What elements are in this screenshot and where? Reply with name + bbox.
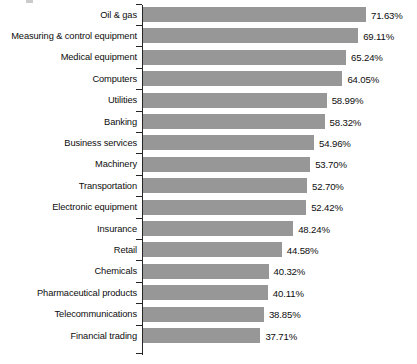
bar-value-label: 54.96% (319, 137, 351, 148)
bar (143, 285, 268, 300)
bar-value-label: 40.32% (274, 266, 306, 277)
axis-tick (136, 282, 142, 283)
category-label: Banking (104, 116, 137, 127)
bar-value-label: 69.11% (363, 30, 394, 41)
axis-tick (136, 111, 142, 112)
bar-value-label: 52.70% (312, 180, 344, 191)
category-label: Transportation (79, 180, 137, 191)
bar-value-label: 58.32% (330, 116, 362, 127)
bar-value-label: 38.85% (269, 309, 301, 320)
bar-value-label: 58.99% (332, 95, 364, 106)
bar-chart: Oil & gas71.63%Measuring & control equip… (0, 0, 417, 364)
axis-tick (136, 153, 142, 154)
bar (143, 71, 342, 86)
bar (143, 242, 282, 257)
bar-row: Retail44.58% (0, 242, 417, 257)
category-label: Computers (92, 73, 137, 84)
bar (143, 7, 366, 22)
category-label: Insurance (97, 223, 137, 234)
axis-tick (136, 68, 142, 69)
bar-value-label: 37.71% (265, 330, 297, 341)
bar (143, 157, 310, 172)
bar-value-label: 40.11% (273, 287, 304, 298)
bar (143, 307, 264, 322)
bar-row: Medical equipment65.24% (0, 50, 417, 65)
bar-row: Measuring & control equipment69.11% (0, 28, 417, 43)
category-label: Oil & gas (100, 9, 137, 20)
axis-tick (136, 4, 142, 5)
bar-row: Electronic equipment52.42% (0, 200, 417, 215)
category-label: Utilities (108, 95, 137, 106)
bar (143, 328, 260, 343)
bar-value-label: 65.24% (351, 52, 383, 63)
bar-value-label: 71.63% (371, 9, 403, 20)
axis-tick (136, 46, 142, 47)
axis-tick (136, 260, 142, 261)
bar-row: Business services54.96% (0, 135, 417, 150)
category-label: Medical equipment (61, 52, 137, 63)
axis-tick (136, 325, 142, 326)
bar (143, 135, 314, 150)
axis-tick (136, 218, 142, 219)
bar (143, 28, 358, 43)
category-label: Measuring & control equipment (11, 30, 137, 41)
bar-row: Banking58.32% (0, 114, 417, 129)
bar-row: Chemicals40.32% (0, 264, 417, 279)
bar (143, 93, 327, 108)
bar-value-label: 64.05% (347, 73, 379, 84)
axis-tick (136, 303, 142, 304)
bar (143, 200, 306, 215)
bar (143, 178, 307, 193)
bar-row: Pharmaceutical products40.11% (0, 285, 417, 300)
category-label: Telecommunications (55, 309, 137, 320)
axis-end-tick (136, 353, 142, 354)
bar (143, 221, 293, 236)
bar-row: Computers64.05% (0, 71, 417, 86)
bar-row: Machinery53.70% (0, 157, 417, 172)
bar-row: Oil & gas71.63% (0, 7, 417, 22)
category-label: Electronic equipment (52, 202, 137, 213)
bar-row: Insurance48.24% (0, 221, 417, 236)
bar-row: Utilities58.99% (0, 93, 417, 108)
bar (143, 264, 269, 279)
bar-row: Transportation52.70% (0, 178, 417, 193)
category-label: Pharmaceutical products (37, 287, 137, 298)
bar (143, 114, 325, 129)
axis-tick (136, 25, 142, 26)
axis-tick (136, 239, 142, 240)
bar-value-label: 52.42% (311, 202, 343, 213)
bar (143, 50, 346, 65)
category-label: Machinery (95, 159, 137, 170)
plot-area: Oil & gas71.63%Measuring & control equip… (0, 0, 417, 364)
bar-value-label: 53.70% (315, 159, 347, 170)
category-label: Financial trading (70, 330, 137, 341)
category-label: Retail (114, 244, 137, 255)
bar-value-label: 44.58% (287, 244, 319, 255)
category-label: Business services (64, 137, 137, 148)
axis-tick (136, 175, 142, 176)
bar-row: Telecommunications38.85% (0, 307, 417, 322)
bar-row: Financial trading37.71% (0, 328, 417, 343)
axis-tick (136, 132, 142, 133)
axis-tick (136, 196, 142, 197)
bar-value-label: 48.24% (298, 223, 330, 234)
axis-tick (136, 89, 142, 90)
category-label: Chemicals (95, 266, 138, 277)
